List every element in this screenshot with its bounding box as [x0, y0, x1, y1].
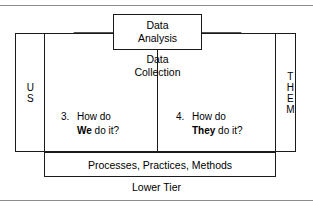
- question-we-line-1: 3.How do: [61, 110, 153, 124]
- us-letter-1: U: [27, 82, 34, 93]
- question-block-we: 3.How do We do it?: [61, 110, 153, 138]
- them-letter-4: M: [286, 104, 295, 115]
- lower-tier-box-label: Processes, Practices, Methods: [88, 159, 232, 171]
- data-analysis-line-2: Analysis: [138, 32, 177, 45]
- us-letter-2: S: [27, 93, 34, 104]
- question-block-they: 4.How do They do it?: [176, 110, 272, 138]
- them-letter-3: E: [287, 93, 294, 104]
- question-they-text-1: How do: [192, 111, 226, 122]
- page-rule-top: [0, 5, 313, 6]
- question-they-line-1: 4.How do: [176, 110, 272, 124]
- question-they-text-2: do it?: [215, 125, 242, 136]
- lower-tier-box: Processes, Practices, Methods: [44, 152, 276, 177]
- lower-tier-caption: Lower Tier: [0, 181, 313, 193]
- center-axis-line: [157, 33, 158, 152]
- question-we-line-2: We do it?: [61, 124, 153, 138]
- them-letter-2: H: [287, 82, 294, 93]
- them-letter-1: T: [287, 71, 293, 82]
- side-label-us: U S: [16, 33, 45, 152]
- question-we-number: 3.: [61, 110, 77, 124]
- data-collection-line-2: Collection: [113, 66, 202, 79]
- data-analysis-line-1: Data: [146, 19, 168, 32]
- data-collection-label: Data Collection: [113, 53, 202, 79]
- page-rule-bottom: [0, 200, 313, 201]
- diagram-root: U S T H E M Data Analysis Data Collectio…: [0, 0, 313, 207]
- question-they-emphasis: They: [192, 125, 215, 136]
- data-analysis-box: Data Analysis: [113, 14, 202, 50]
- side-label-them: T H E M: [276, 33, 305, 152]
- question-we-emphasis: We: [77, 125, 92, 136]
- question-they-number: 4.: [176, 110, 192, 124]
- question-they-line-2: They do it?: [176, 124, 272, 138]
- question-we-text-1: How do: [77, 111, 111, 122]
- question-we-text-2: do it?: [92, 125, 119, 136]
- data-collection-line-1: Data: [113, 53, 202, 66]
